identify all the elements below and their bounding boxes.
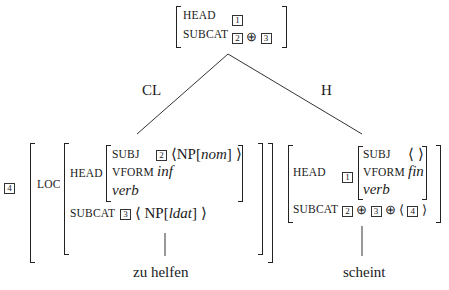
right-head-label: HEAD xyxy=(293,166,326,178)
right-subj-value: ⟨ ⟩ xyxy=(408,145,424,163)
tag-3: 3 xyxy=(120,209,131,220)
left-tag: 4 xyxy=(4,178,15,196)
right-type: verb xyxy=(363,181,390,198)
left-outer-right-bracket xyxy=(268,143,273,263)
left-head-left-bracket xyxy=(106,145,111,202)
right-subcat-value: 2 ⊕ 3 ⊕ ⟨ 4 ⟩ xyxy=(342,202,427,218)
left-subj-value: 2 ⟨NP[nom] ⟩ xyxy=(156,145,242,163)
append-operator: ⊕ xyxy=(246,29,257,44)
right-subj-label: SUBJ xyxy=(363,148,391,160)
left-subcat-label: SUBCAT xyxy=(70,207,115,219)
right-vform-value: fin xyxy=(408,163,424,180)
right-vform-label: VFORM xyxy=(363,166,405,178)
tag-1: 1 xyxy=(232,15,243,26)
root-left-bracket xyxy=(176,6,181,48)
left-type: verb xyxy=(112,182,139,199)
right-branch-line xyxy=(228,54,362,134)
left-subcat-value: 3 ⟨ NP[ldat] ⟩ xyxy=(120,204,207,222)
tag-2: 2 xyxy=(156,150,167,161)
branch-label-cl: CL xyxy=(142,82,161,99)
loc-label: LOC xyxy=(37,178,61,190)
root-right-bracket xyxy=(282,6,287,48)
right-subcat-label: SUBCAT xyxy=(293,203,338,215)
tag-3: 3 xyxy=(371,206,382,217)
left-subj-label: SUBJ xyxy=(112,148,140,160)
tag-2: 2 xyxy=(232,33,243,44)
left-word: zu helfen xyxy=(133,264,188,281)
left-head-label: HEAD xyxy=(70,167,103,179)
branch-label-h: H xyxy=(321,82,332,99)
right-outer-right-bracket xyxy=(436,145,441,223)
root-subcat-value: 2 ⊕ 3 xyxy=(232,29,272,45)
root-subcat-label: SUBCAT xyxy=(183,28,228,40)
left-outer-left-bracket xyxy=(30,143,35,263)
root-head-label: HEAD xyxy=(183,9,216,21)
tag-1: 1 xyxy=(342,172,353,183)
loc-right-bracket xyxy=(258,143,263,255)
tag-3: 3 xyxy=(261,33,272,44)
root-head-value: 1 xyxy=(232,10,243,28)
left-vform-label: VFORM xyxy=(112,166,154,178)
tag-4: 4 xyxy=(407,206,418,217)
loc-left-bracket xyxy=(64,143,69,255)
left-vform-value: inf xyxy=(157,163,173,180)
right-head-value: 1 xyxy=(342,167,353,185)
tag-2: 2 xyxy=(342,206,353,217)
right-word: scheint xyxy=(343,264,386,281)
tag-4: 4 xyxy=(4,183,15,194)
